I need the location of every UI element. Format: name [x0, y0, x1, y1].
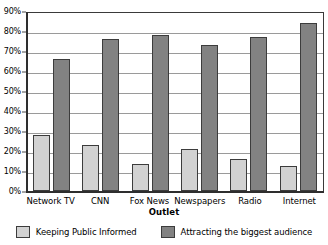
- bar[interactable]: [53, 59, 70, 191]
- y-axis-tick-label: 40%: [4, 108, 21, 116]
- legend-item[interactable]: Keeping Public Informed: [16, 226, 137, 238]
- bar[interactable]: [152, 35, 169, 191]
- bar[interactable]: [102, 39, 119, 191]
- x-axis-title: Outlet: [0, 207, 328, 217]
- bar[interactable]: [201, 45, 218, 191]
- y-axis-tick-label: 10%: [4, 168, 21, 176]
- bar[interactable]: [300, 23, 317, 191]
- bar[interactable]: [181, 149, 198, 191]
- legend-label: Attracting the biggest audience: [181, 227, 313, 237]
- legend-swatch: [16, 226, 30, 238]
- y-axis-tick-label: 20%: [4, 148, 21, 156]
- chart-legend: Keeping Public InformedAttracting the bi…: [0, 222, 328, 242]
- plot-wrapper: 0%10%20%30%40%50%60%70%80%90% Network TV…: [0, 0, 328, 196]
- bar[interactable]: [230, 159, 247, 191]
- bar[interactable]: [82, 145, 99, 191]
- bar[interactable]: [250, 37, 267, 191]
- bar-group: [175, 13, 224, 191]
- y-axis-tick-label: 50%: [4, 88, 21, 96]
- x-axis-line: [26, 191, 324, 193]
- y-axis-tick-label: 90%: [4, 8, 21, 16]
- bar[interactable]: [132, 164, 149, 191]
- y-axis-tick-label: 30%: [4, 128, 21, 136]
- plot-area: [26, 12, 324, 192]
- y-axis-tick-label: 0%: [9, 188, 21, 196]
- bar-group: [27, 13, 76, 191]
- y-axis-line: [26, 12, 28, 193]
- legend-swatch: [161, 226, 175, 238]
- y-axis-tick-label: 70%: [4, 48, 21, 56]
- bar-group: [126, 13, 175, 191]
- bar-chart: 0%10%20%30%40%50%60%70%80%90% Network TV…: [0, 0, 328, 245]
- legend-item[interactable]: Attracting the biggest audience: [161, 226, 313, 238]
- bar[interactable]: [33, 135, 50, 191]
- bar-groups: [27, 13, 323, 191]
- bar-group: [224, 13, 273, 191]
- y-axis-tick-labels: 0%10%20%30%40%50%60%70%80%90%: [0, 0, 26, 196]
- y-axis-tick-label: 80%: [4, 28, 21, 36]
- bar[interactable]: [280, 166, 297, 191]
- y-axis-tick-label: 60%: [4, 68, 21, 76]
- legend-label: Keeping Public Informed: [36, 227, 137, 237]
- bar-group: [274, 13, 323, 191]
- bar-group: [76, 13, 125, 191]
